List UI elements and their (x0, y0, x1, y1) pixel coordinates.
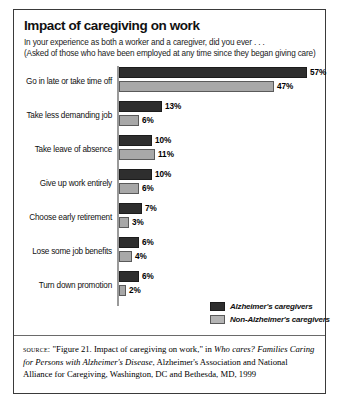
bar-pair: 6% 4% (119, 236, 325, 270)
category-label: Take less demanding job (14, 111, 112, 120)
bar-alzheimers (119, 67, 307, 78)
bar-non-alzheimers (119, 217, 129, 228)
bar-pair: 57% 47% (119, 66, 325, 100)
page-title: Impact of caregiving on work (24, 19, 315, 34)
chart-plot-area: Go in late or take time off 57% 47% Take… (14, 66, 325, 306)
chart-subtitle-line-2: (Asked of those who have been employed a… (24, 48, 315, 59)
bar-non-alzheimers (119, 183, 139, 194)
bar-value-alzheimers: 13% (165, 101, 181, 112)
chart-legend: Alzheimer's caregivers Non-Alzheimer's c… (210, 302, 330, 328)
bar-value-non-alzheimers: 11% (158, 149, 174, 160)
bar-value-alzheimers: 57% (310, 67, 326, 78)
bar-value-alzheimers: 6% (142, 237, 154, 248)
bar-pair: 6% 2% (119, 270, 325, 304)
category-label: Choose early retirement (14, 213, 112, 222)
chart-subtitle: In your experience as both a worker and … (24, 37, 315, 60)
bar-group: Lose some job benefits 6% 4% (14, 236, 325, 270)
legend-swatch-icon-alzheimers (210, 302, 225, 311)
bar-pair: 10% 6% (119, 168, 325, 202)
bar-non-alzheimers (119, 149, 155, 160)
bar-value-non-alzheimers: 47% (277, 81, 293, 92)
bar-alzheimers (119, 101, 162, 112)
bar-value-non-alzheimers: 6% (142, 115, 154, 126)
bar-alzheimers (119, 169, 152, 180)
chart-subtitle-line-1: In your experience as both a worker and … (24, 37, 315, 48)
bar-value-alzheimers: 6% (142, 271, 154, 282)
bar-pair: 7% 3% (119, 202, 325, 236)
legend-item-alzheimers: Alzheimer's caregivers (210, 302, 330, 311)
category-label: Lose some job benefits (14, 247, 112, 256)
source-text-1: "Figure 21. Impact of caregiving on work… (50, 344, 214, 354)
bar-alzheimers (119, 203, 142, 214)
bar-value-alzheimers: 10% (155, 135, 171, 146)
bar-group: Turn down promotion 6% 2% (14, 270, 325, 304)
category-label: Turn down promotion (14, 281, 112, 290)
bar-group: Go in late or take time off 57% 47% (14, 66, 325, 100)
source-divider (14, 335, 325, 336)
bar-value-non-alzheimers: 4% (135, 251, 147, 262)
legend-label-alzheimers: Alzheimer's caregivers (230, 302, 312, 311)
bar-pair: 10% 11% (119, 134, 325, 168)
source-keyword: source: (23, 345, 50, 354)
chart-header: Impact of caregiving on work In your exp… (14, 10, 325, 59)
bar-value-alzheimers: 10% (155, 169, 171, 180)
source-note: source: "Figure 21. Impact of caregiving… (23, 343, 316, 380)
legend-label-non-alzheimers: Non-Alzheimer's caregivers (230, 315, 330, 324)
bar-non-alzheimers (119, 285, 126, 296)
bar-non-alzheimers (119, 81, 274, 92)
bar-non-alzheimers (119, 115, 139, 126)
bar-value-non-alzheimers: 6% (142, 183, 154, 194)
bar-group: Choose early retirement 7% 3% (14, 202, 325, 236)
category-label: Go in late or take time off (14, 77, 112, 86)
legend-item-non-alzheimers: Non-Alzheimer's caregivers (210, 315, 330, 324)
bar-value-non-alzheimers: 2% (129, 285, 141, 296)
bar-value-alzheimers: 7% (145, 203, 157, 214)
category-label: Take leave of absence (14, 145, 112, 154)
bar-value-non-alzheimers: 3% (132, 217, 144, 228)
legend-swatch-icon-non-alzheimers (210, 315, 225, 324)
bar-pair: 13% 6% (119, 100, 325, 134)
bar-alzheimers (119, 237, 139, 248)
bar-group: Take leave of absence 10% 11% (14, 134, 325, 168)
bar-alzheimers (119, 271, 139, 282)
bar-group: Give up work entirely 10% 6% (14, 168, 325, 202)
bar-non-alzheimers (119, 251, 132, 262)
bar-alzheimers (119, 135, 152, 146)
bar-group: Take less demanding job 13% 6% (14, 100, 325, 134)
category-label: Give up work entirely (14, 179, 112, 188)
figure-panel: Impact of caregiving on work In your exp… (13, 9, 326, 394)
